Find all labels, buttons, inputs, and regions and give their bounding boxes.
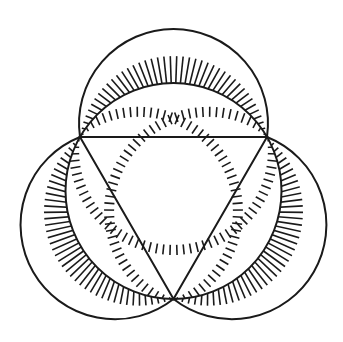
hatch-lines-top	[69, 46, 278, 255]
lunes-diagram	[0, 0, 343, 342]
circumcircle	[66, 83, 282, 299]
lune-right	[104, 107, 326, 319]
triangle-and-circle	[66, 83, 282, 299]
lune-left	[21, 107, 243, 319]
lune-top	[69, 29, 278, 255]
equilateral-triangle	[80, 137, 267, 299]
